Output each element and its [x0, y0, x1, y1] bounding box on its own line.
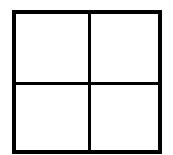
horizontal-divider: [16, 82, 158, 85]
grid-cell-bottom-left: [16, 85, 88, 150]
grid-cell-bottom-right: [91, 85, 158, 150]
grid-cell-top-left: [16, 14, 88, 82]
two-by-two-grid: [12, 10, 162, 154]
grid-cell-top-right: [91, 14, 158, 82]
